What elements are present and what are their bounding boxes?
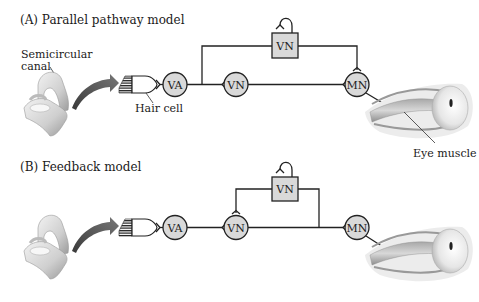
semicircular-canal-label-line2: canal bbox=[21, 60, 51, 73]
va-label-b: VA bbox=[166, 222, 183, 235]
feedback-wire bbox=[236, 189, 272, 213]
semicircular-canal-illustration-b bbox=[24, 215, 69, 279]
panel-b-title: (B) Feedback model bbox=[20, 160, 142, 174]
eye-illustration bbox=[365, 84, 473, 139]
hair-cell-label: Hair cell bbox=[135, 102, 184, 115]
vn-box-label: VN bbox=[275, 40, 294, 53]
va-label: VA bbox=[166, 79, 183, 92]
vn-box-neuron: VN bbox=[272, 18, 298, 58]
semicircular-canal-illustration bbox=[24, 72, 69, 136]
hair-cell bbox=[119, 76, 160, 93]
mn-label: MN bbox=[347, 79, 368, 92]
hair-cell-b bbox=[119, 219, 160, 236]
va-neuron: VA bbox=[163, 73, 187, 97]
stimulus-arrow-icon bbox=[72, 74, 119, 110]
vn-box-label-b: VN bbox=[275, 183, 294, 196]
vn-box-neuron-b: VN bbox=[272, 162, 298, 201]
vn-circle-label-b: VN bbox=[226, 222, 245, 235]
panel-a: (A) Parallel pathway model Semicircular … bbox=[20, 13, 477, 160]
vor-diagram: (A) Parallel pathway model Semicircular … bbox=[0, 0, 479, 302]
panel-b: (B) Feedback model VA VN bbox=[20, 160, 473, 281]
mn-label-b: MN bbox=[347, 222, 368, 235]
mn-neuron-b: MN bbox=[345, 216, 369, 240]
va-neuron-b: VA bbox=[163, 216, 187, 240]
panel-a-title: (A) Parallel pathway model bbox=[20, 13, 185, 27]
eye-illustration-b bbox=[365, 227, 473, 282]
eye-muscle-label: Eye muscle bbox=[413, 147, 477, 160]
vn-circle-label: VN bbox=[226, 79, 245, 92]
vn-circle-neuron: VN bbox=[224, 73, 248, 97]
mn-neuron: MN bbox=[345, 73, 369, 97]
vn-circle-neuron-b: VN bbox=[224, 216, 248, 240]
stimulus-arrow-icon-b bbox=[72, 217, 119, 253]
